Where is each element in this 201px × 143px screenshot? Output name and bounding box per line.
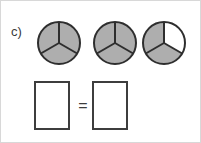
answer-box-left[interactable] <box>34 81 70 130</box>
pie-chart-1 <box>36 20 82 66</box>
problem-label: c) <box>11 25 22 39</box>
equals-sign: = <box>76 97 90 115</box>
answer-box-right[interactable] <box>92 81 128 130</box>
pie-chart-3 <box>141 20 187 66</box>
pie-chart-2 <box>92 20 138 66</box>
worksheet-figure: c) <box>0 0 201 143</box>
